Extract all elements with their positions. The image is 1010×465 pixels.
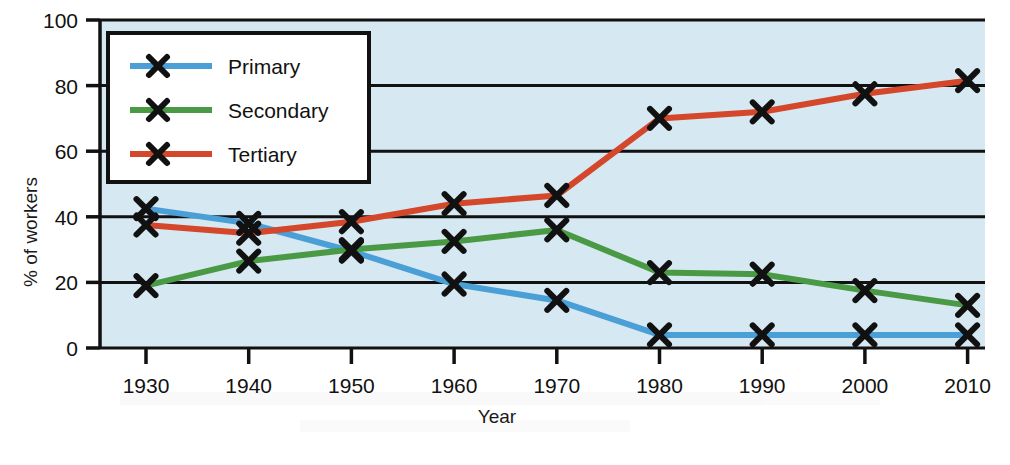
x-axis-tick-labels: 193019401950196019701980199020002010 xyxy=(123,374,991,397)
x-tick-label: 1970 xyxy=(533,374,580,397)
x-tick-label: 2010 xyxy=(944,374,991,397)
y-tick-label: 60 xyxy=(55,140,78,163)
x-tick-label: 1980 xyxy=(636,374,683,397)
y-tick-label: 100 xyxy=(43,9,78,32)
x-tick-label: 1940 xyxy=(225,374,272,397)
y-axis-title: % of workers xyxy=(20,177,41,287)
legend-label: Secondary xyxy=(228,99,329,122)
x-tick-label: 1960 xyxy=(431,374,478,397)
line-chart: 020406080100 193019401950196019701980199… xyxy=(0,0,1010,465)
y-tick-label: 20 xyxy=(55,271,78,294)
chart-figure: 020406080100 193019401950196019701980199… xyxy=(0,0,1010,465)
x-tick-label: 1950 xyxy=(328,374,375,397)
legend-label: Primary xyxy=(228,55,301,78)
x-axis-title: Year xyxy=(478,406,517,427)
y-tick-label: 0 xyxy=(66,337,78,360)
chart-legend: PrimarySecondaryTertiary xyxy=(108,33,369,182)
y-tick-label: 40 xyxy=(55,206,78,229)
x-tick-label: 1930 xyxy=(123,374,170,397)
x-tick-label: 1990 xyxy=(739,374,786,397)
legend-label: Tertiary xyxy=(228,143,297,166)
y-tick-label: 80 xyxy=(55,75,78,98)
x-tick-label: 2000 xyxy=(842,374,889,397)
